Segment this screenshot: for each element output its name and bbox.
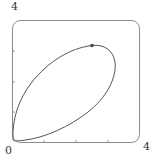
loop-curve xyxy=(13,45,115,141)
curve-marker xyxy=(90,44,94,48)
plot-frame xyxy=(13,21,140,143)
origin-label: 0 xyxy=(5,144,12,157)
loop-plot: 4 0 4 xyxy=(0,0,155,160)
x-max-label: 4 xyxy=(143,140,150,153)
y-max-label: 4 xyxy=(11,0,18,13)
